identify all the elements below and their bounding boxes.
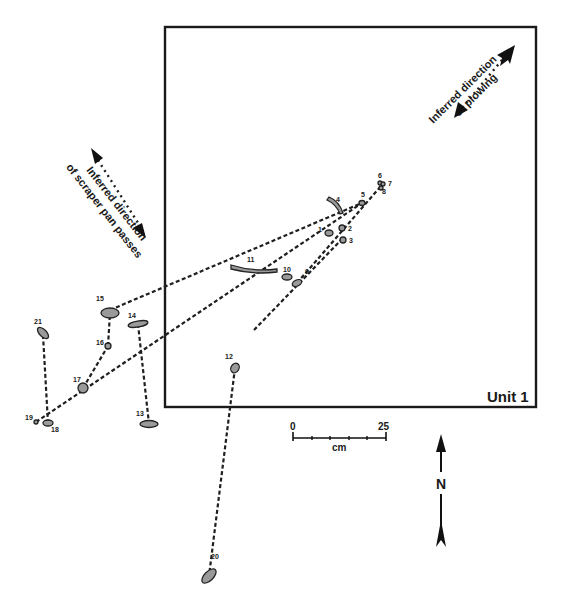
artifact-label: 17: [73, 376, 81, 383]
artifact-8: 8: [379, 186, 386, 195]
artifact-label: 20: [211, 553, 219, 560]
artifact-15: 15: [96, 295, 119, 318]
north-label: N: [436, 476, 446, 492]
artifact-13: 13: [136, 410, 158, 428]
scale-start: 0: [290, 421, 296, 432]
artifact-label: 2: [348, 225, 352, 232]
artifact-label: 16: [96, 339, 104, 346]
artifact-14: 14: [128, 312, 149, 329]
artifact-3: 3: [340, 237, 353, 244]
artifact-shape: [101, 308, 119, 318]
artifact-label: 10: [283, 266, 291, 273]
artifact-label: 9: [305, 268, 309, 275]
artifact-shape: [340, 237, 346, 243]
scale-end: 25: [378, 421, 390, 432]
artifact-1: 1: [318, 226, 333, 236]
refit-diagram: Unit 1 123456789101112131415161718192021…: [0, 0, 562, 608]
artifact-label: 8: [382, 188, 386, 195]
artifact-4: 4: [336, 196, 340, 203]
artifact-21: 21: [34, 318, 50, 340]
artifact-shape: [339, 225, 345, 231]
artifact-label: 12: [225, 353, 233, 360]
artifact-label: 15: [96, 295, 104, 302]
artifact-shape: [128, 319, 149, 328]
artifact-label: 6: [378, 172, 382, 179]
artifact-label: 19: [25, 414, 33, 421]
artifact-17: 17: [73, 376, 88, 393]
artifact-label: 7: [388, 180, 392, 187]
artifact-label: 1: [318, 226, 322, 233]
scraper-label-line2: of scraper pan passes: [64, 161, 145, 260]
refit-line: [138, 324, 149, 424]
artifact-5: 5: [359, 191, 365, 206]
unit-label: Unit 1: [487, 388, 529, 405]
artifact-19: 19: [25, 414, 38, 424]
scraper-arrow-head-top: [91, 148, 103, 164]
artifact-label: 4: [336, 196, 340, 203]
artifact-shape: [140, 421, 158, 428]
artifact-shape: [34, 420, 38, 424]
artifact-shape: [381, 182, 385, 186]
plowing-direction-annotation: Inferred direction of plowing: [426, 53, 508, 135]
artifact-shape: [359, 201, 365, 206]
artifact-11: 11: [247, 256, 255, 263]
artifact-label: 21: [34, 318, 42, 325]
artifact-label: 3: [349, 237, 353, 244]
artifacts: 123456789101112131415161718192021: [25, 172, 392, 586]
refit-line: [110, 203, 362, 310]
artifact-label: 14: [128, 312, 136, 319]
plowing-arrow-head-top: [497, 45, 515, 66]
scraper-direction-annotation: Inferred direction of scraper pan passes: [64, 152, 156, 260]
artifact-10: 10: [282, 266, 292, 280]
artifact-shape: [78, 383, 88, 393]
artifact-12: 12: [225, 353, 241, 374]
artifact-shape: [325, 230, 333, 236]
artifact-shape: [282, 274, 292, 280]
artifact-shape: [291, 278, 303, 288]
artifact-shape: [229, 362, 241, 375]
artifact-4-shape: [327, 197, 343, 214]
artifact-16: 16: [96, 339, 111, 349]
artifact-label: 5: [361, 191, 365, 198]
artifact-9: 9: [291, 268, 309, 288]
scale-unit: cm: [332, 442, 347, 453]
north-arrow: N: [436, 434, 446, 547]
artifact-18: 18: [43, 420, 59, 433]
refit-line: [209, 368, 235, 576]
artifact-11-shape: [231, 265, 277, 273]
artifact-label: 13: [136, 410, 144, 417]
refit-lines: [36, 186, 381, 576]
artifact-shape: [105, 343, 111, 349]
refit-line: [43, 335, 48, 423]
artifact-label: 18: [51, 426, 59, 433]
artifact-label: 11: [247, 256, 255, 263]
scale-bar: 0 25 cm: [290, 421, 390, 453]
